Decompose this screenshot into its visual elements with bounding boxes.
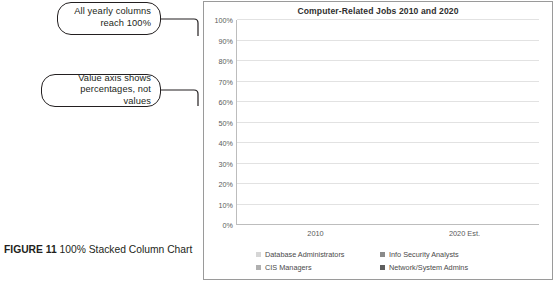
plot-area: 0%10%20%30%40%50%60%70%80%90%100% 2010 2… xyxy=(236,20,539,225)
gridline-20% xyxy=(237,183,539,184)
chart-panel[interactable]: Computer-Related Jobs 2010 and 2020 0%10… xyxy=(203,1,553,280)
legend-item-cis-managers[interactable]: CIS Managers xyxy=(256,263,380,272)
chart-title: Computer-Related Jobs 2010 and 2020 xyxy=(204,6,552,16)
y-tick-50%: 50% xyxy=(219,118,233,127)
legend-item-info-security-analysts[interactable]: Info Security Analysts xyxy=(380,250,526,259)
y-tick-20%: 20% xyxy=(219,180,233,189)
gridline-30% xyxy=(237,163,539,164)
callout-1-leader-line xyxy=(160,10,208,36)
legend-label: Network/System Admins xyxy=(389,263,468,272)
y-tick-30%: 30% xyxy=(219,159,233,168)
legend-swatch-icon xyxy=(380,265,385,270)
x-axis-label-2020: 2020 Est. xyxy=(433,229,496,238)
legend-label: Database Administrators xyxy=(265,250,345,259)
y-tick-80%: 80% xyxy=(219,57,233,66)
legend-label: Info Security Analysts xyxy=(389,250,459,259)
legend-swatch-icon xyxy=(380,252,385,257)
y-tick-70%: 70% xyxy=(219,77,233,86)
gridline-100% xyxy=(237,19,539,20)
gridline-80% xyxy=(237,60,539,61)
chart-legend: Database AdministratorsInfo Security Ana… xyxy=(256,250,526,272)
y-tick-60%: 60% xyxy=(219,98,233,107)
gridline-40% xyxy=(237,142,539,143)
gridline-60% xyxy=(237,101,539,102)
y-tick-90%: 90% xyxy=(219,36,233,45)
y-tick-40%: 40% xyxy=(219,139,233,148)
legend-swatch-icon xyxy=(256,252,261,257)
callout-2-leader-line xyxy=(160,82,208,108)
gridline-90% xyxy=(237,40,539,41)
y-tick-100%: 100% xyxy=(215,16,233,25)
gridline-70% xyxy=(237,81,539,82)
legend-label: CIS Managers xyxy=(265,263,312,272)
gridline-0% xyxy=(237,224,539,225)
legend-swatch-icon xyxy=(256,265,261,270)
figure-number-label: FIGURE 11 xyxy=(4,244,57,255)
callout-2-text: Value axis shows percentages, not values xyxy=(51,73,151,108)
figure-caption-text: 100% Stacked Column Chart xyxy=(60,244,193,255)
gridline-50% xyxy=(237,122,539,123)
x-axis-label-2010: 2010 xyxy=(284,229,347,238)
y-tick-10%: 10% xyxy=(219,200,233,209)
callout-1-text: All yearly columns reach 100% xyxy=(74,6,151,29)
figure-caption: FIGURE 11 100% Stacked Column Chart xyxy=(4,243,194,256)
plot-region: 0%10%20%30%40%50%60%70%80%90%100% 2010 2… xyxy=(236,20,539,225)
gridline-10% xyxy=(237,204,539,205)
legend-item-database-administrators[interactable]: Database Administrators xyxy=(256,250,380,259)
legend-item-network-system-admins[interactable]: Network/System Admins xyxy=(380,263,526,272)
callout-value-axis-percentages: Value axis shows percentages, not values xyxy=(41,74,161,107)
y-tick-0%: 0% xyxy=(223,221,233,230)
callout-columns-reach-100: All yearly columns reach 100% xyxy=(57,2,161,35)
